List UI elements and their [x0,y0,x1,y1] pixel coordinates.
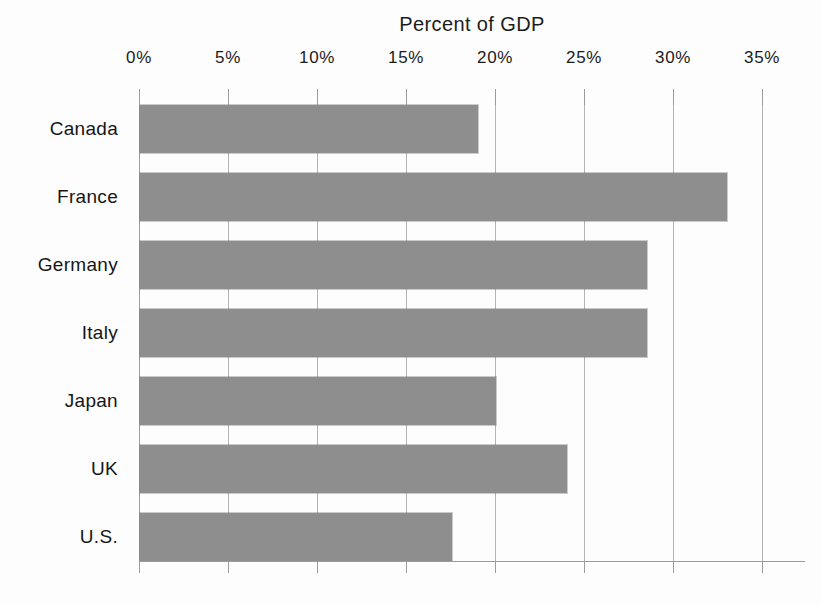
category-label-canada: Canada [0,105,118,153]
x-tick-label-0: 0% [126,48,152,68]
bar-italy [140,309,647,357]
top-tick-mark [406,89,407,105]
bar-france [140,173,727,221]
bottom-tick-mark [673,561,674,573]
x-tick-label-5: 5% [215,48,241,68]
bar-uk [140,445,567,493]
bottom-tick-mark [228,561,229,573]
top-tick-mark [139,89,140,105]
bottom-tick-mark [495,561,496,573]
bottom-tick-mark [762,561,763,573]
category-label-italy: Italy [0,309,118,357]
x-tick-label-30: 30% [655,48,691,68]
x-tick-label-10: 10% [299,48,335,68]
top-tick-mark [762,89,763,105]
bar-japan [140,377,496,425]
category-label-uk: UK [0,445,118,493]
gridline-35 [762,105,763,561]
category-label-japan: Japan [0,377,118,425]
category-label-us: U.S. [0,513,118,561]
top-tick-mark [495,89,496,105]
top-tick-mark [673,89,674,105]
bar-us [140,513,452,561]
x-tick-label-20: 20% [477,48,513,68]
x-tick-label-15: 15% [388,48,424,68]
bottom-tick-mark [317,561,318,573]
percent-of-gdp-bar-chart: Percent of GDP 0%5%10%15%20%25%30%35% Ca… [0,0,821,605]
bar-germany [140,241,647,289]
plot-area [139,105,805,561]
bottom-tick-mark [406,561,407,573]
top-tick-mark [317,89,318,105]
x-axis-baseline [139,561,805,562]
chart-title: Percent of GDP [139,13,805,36]
category-label-france: France [0,173,118,221]
top-tick-mark [228,89,229,105]
top-tick-mark [584,89,585,105]
x-tick-label-35: 35% [744,48,780,68]
bottom-tick-mark [139,561,140,573]
bottom-tick-mark [584,561,585,573]
category-label-germany: Germany [0,241,118,289]
bar-canada [140,105,478,153]
x-tick-label-25: 25% [566,48,602,68]
